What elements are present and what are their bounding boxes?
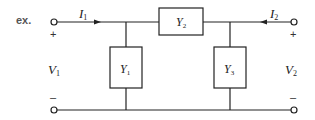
port1-bottom-terminal-icon: [51, 107, 57, 113]
port2-plus-sign: +: [290, 28, 296, 40]
port2-minus-sign: –: [290, 91, 297, 103]
port1-plus-sign: +: [50, 28, 56, 40]
current-i2-arrow-icon: [260, 20, 267, 25]
voltage-v2-label: V2: [285, 62, 297, 78]
port2-bottom-terminal-icon: [291, 107, 297, 113]
port2-top-terminal-icon: [291, 19, 297, 25]
port1-minus-sign: –: [50, 91, 57, 103]
port1-top-terminal-icon: [51, 19, 57, 25]
current-i2-label: I2: [269, 6, 278, 22]
two-port-circuit-diagram: I1 I2 + – + – V1 V2 Y1 Y2 Y3: [0, 0, 315, 120]
current-i1-arrow-icon: [94, 20, 101, 25]
voltage-v1-label: V1: [48, 62, 60, 78]
current-i1-label: I1: [78, 6, 87, 22]
